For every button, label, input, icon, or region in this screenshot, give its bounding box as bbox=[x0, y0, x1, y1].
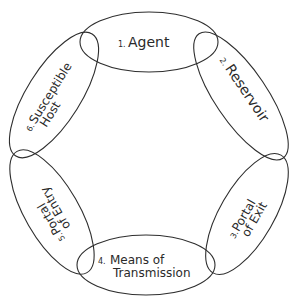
link-means-of-transmission: 4. Means of Transmission bbox=[77, 235, 215, 295]
link-portal-of-entry: 5. Portal of Entry bbox=[0, 138, 110, 286]
means-of-transmission-line1: Means of bbox=[110, 253, 165, 267]
means-of-transmission-number: 4. bbox=[98, 257, 106, 266]
link-agent: 1. Agent bbox=[80, 12, 218, 72]
reservoir-ellipse bbox=[178, 19, 294, 172]
reservoir-label: Reservoir bbox=[222, 61, 272, 125]
means-of-transmission-line2: Transmission bbox=[112, 266, 191, 280]
link-reservoir: 2. Reservoir bbox=[178, 19, 294, 172]
agent-label: Agent bbox=[128, 34, 170, 50]
link-susceptible-host: 6. Susceptible Host bbox=[0, 20, 115, 171]
link-portal-of-exit: 3. Portal of Exit bbox=[190, 142, 294, 287]
chain-of-infection-diagram: 1. Agent 2. Reservoir 3. Portal of Exit … bbox=[0, 0, 294, 303]
agent-number: 1. bbox=[118, 40, 126, 49]
